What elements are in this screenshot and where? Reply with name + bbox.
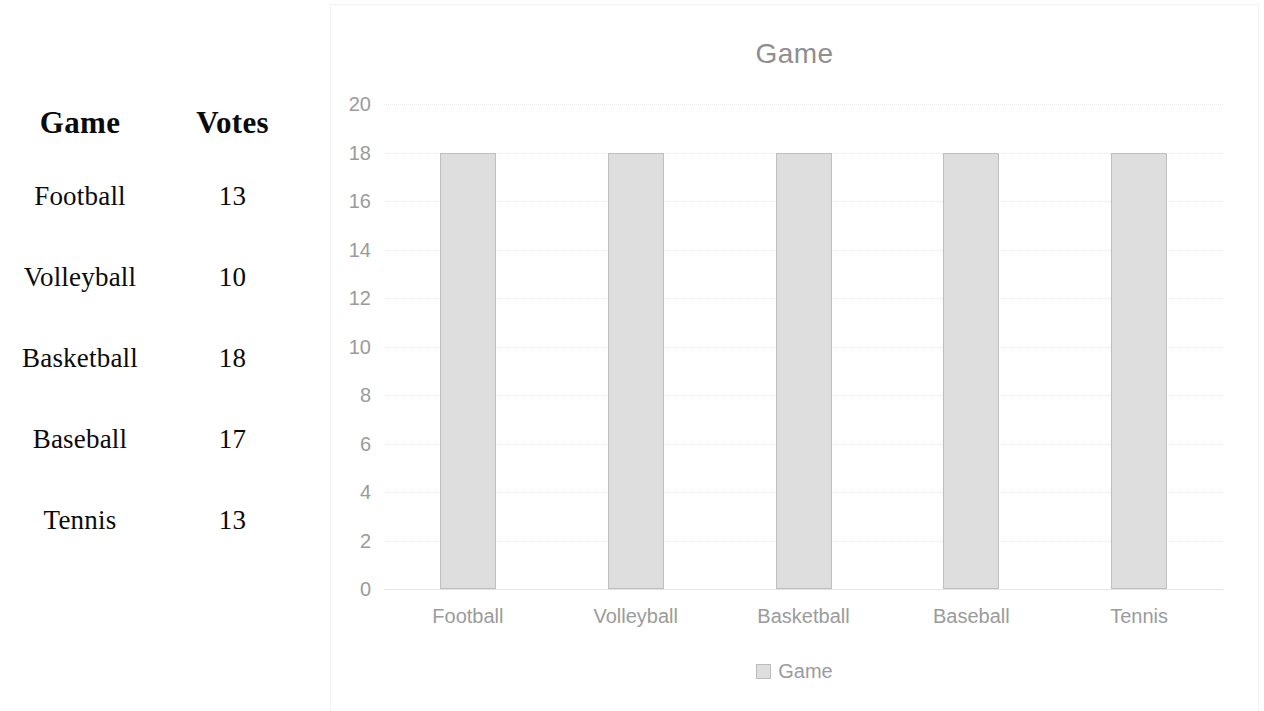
table-header-row: Game Votes <box>0 105 305 181</box>
chart-legend: Game <box>331 660 1258 683</box>
cell-game: Baseball <box>0 424 160 505</box>
y-tick-label: 2 <box>360 529 371 552</box>
legend-swatch-icon <box>756 664 771 679</box>
votes-data-table: Game Votes Football13Volleyball10Basketb… <box>0 105 305 536</box>
legend-label: Game <box>778 660 832 683</box>
x-tick-label: Volleyball <box>593 605 678 628</box>
table-body: Football13Volleyball10Basketball18Baseba… <box>0 181 305 536</box>
table-header: Game Votes <box>0 105 305 181</box>
table-row: Football13 <box>0 181 305 262</box>
y-tick-label: 14 <box>349 238 371 261</box>
table: Game Votes Football13Volleyball10Basketb… <box>0 105 305 536</box>
y-tick-label: 8 <box>360 384 371 407</box>
table-row: Tennis13 <box>0 505 305 536</box>
cell-votes: 13 <box>160 505 305 536</box>
chart-title: Game <box>331 38 1258 70</box>
cell-game: Tennis <box>0 505 160 536</box>
y-tick-label: 0 <box>360 578 371 601</box>
bar <box>608 153 664 590</box>
cell-votes: 10 <box>160 262 305 343</box>
cell-game: Football <box>0 181 160 262</box>
bar <box>1111 153 1167 590</box>
cell-votes: 13 <box>160 181 305 262</box>
x-tick-label: Football <box>432 605 503 628</box>
y-tick-label: 16 <box>349 190 371 213</box>
chart-frame: Game 20181614121086420 FootballVolleybal… <box>330 4 1259 711</box>
gridline <box>384 104 1223 105</box>
bar <box>776 153 832 590</box>
x-tick-label: Basketball <box>757 605 849 628</box>
bar <box>440 153 496 590</box>
x-axis-baseline <box>384 589 1223 590</box>
plot-area: 20181614121086420 FootballVolleyballBask… <box>384 104 1223 590</box>
bar <box>943 153 999 590</box>
y-tick-label: 6 <box>360 432 371 455</box>
table-row: Baseball17 <box>0 424 305 505</box>
column-header-votes: Votes <box>160 105 305 181</box>
y-tick-label: 12 <box>349 287 371 310</box>
y-tick-label: 10 <box>349 335 371 358</box>
y-tick-label: 18 <box>349 141 371 164</box>
table-row: Basketball18 <box>0 343 305 424</box>
x-tick-label: Tennis <box>1110 605 1168 628</box>
cell-votes: 18 <box>160 343 305 424</box>
y-tick-label: 4 <box>360 481 371 504</box>
table-row: Volleyball10 <box>0 262 305 343</box>
cell-votes: 17 <box>160 424 305 505</box>
column-header-game: Game <box>0 105 160 181</box>
x-tick-label: Baseball <box>933 605 1010 628</box>
chart-page: Game Votes Football13Volleyball10Basketb… <box>0 0 1264 711</box>
cell-game: Volleyball <box>0 262 160 343</box>
cell-game: Basketball <box>0 343 160 424</box>
y-tick-label: 20 <box>349 93 371 116</box>
